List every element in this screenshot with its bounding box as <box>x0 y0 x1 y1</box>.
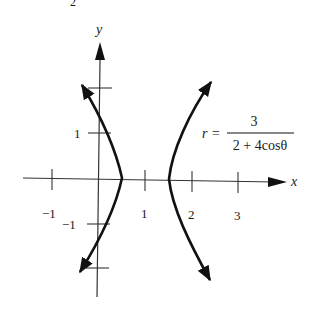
equation-label: r = 3 2 + 4cosθ <box>202 114 294 153</box>
x-axis: x −1 1 2 3 <box>23 169 298 223</box>
equation-numerator: 3 <box>251 114 258 129</box>
equation-denominator: 2 + 4cosθ <box>233 138 288 153</box>
y-axis-label: y <box>94 22 103 37</box>
x-tick-label-3: 3 <box>234 208 241 223</box>
equation-lhs: r = <box>202 126 220 141</box>
y-tick-label-neg1: −1 <box>62 217 76 232</box>
hyperbola-plot: 2 x −1 1 2 3 y 1 −1 r = 3 2 + 4cos <box>0 0 320 327</box>
cropped-text-fragment: 2 <box>70 0 76 9</box>
x-axis-arrow-icon <box>268 177 287 187</box>
x-tick-label-neg1: −1 <box>42 206 56 221</box>
x-tick-label-2: 2 <box>188 207 195 222</box>
y-axis-arrow-icon <box>95 42 105 60</box>
y-axis: y 1 −1 <box>62 22 112 297</box>
y-tick-label-1: 1 <box>74 126 81 141</box>
x-axis-label: x <box>290 174 298 189</box>
x-tick-label-1: 1 <box>141 206 148 221</box>
